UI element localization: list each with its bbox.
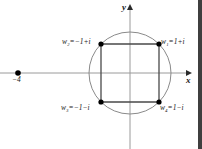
right-edge-band xyxy=(198,0,202,149)
x-axis-label: x xyxy=(186,76,191,85)
label-w3: w₃=−1−i xyxy=(61,104,90,112)
point-w3 xyxy=(98,99,103,104)
label-w4: w₄=1−i xyxy=(160,104,184,112)
complex-plane-figure: w₂=−1+i w₁=1+i w₃=−1−i w₄=1−i −4 y x xyxy=(0,0,202,149)
label-w1: w₁=1+i xyxy=(161,38,185,46)
plot-canvas xyxy=(0,0,202,149)
label-minus-four: −4 xyxy=(12,76,21,84)
label-w2: w₂=−1+i xyxy=(62,38,91,46)
y-axis-label: y xyxy=(122,3,126,12)
point-w2 xyxy=(98,41,103,46)
y-axis-arrow xyxy=(127,4,133,10)
